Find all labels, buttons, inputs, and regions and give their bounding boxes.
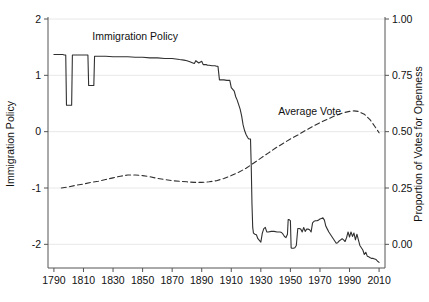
y-tick-label-left: 1 — [35, 69, 41, 81]
y-tick-label-right: 0.50 — [392, 125, 413, 137]
x-tick-label: 1830 — [101, 274, 125, 286]
x-tick-label: 1970 — [308, 274, 332, 286]
x-tick-label: 1890 — [190, 274, 214, 286]
y-tick-label-right: 0.25 — [392, 182, 413, 194]
y-tick-label-right: 0.75 — [392, 69, 413, 81]
chart-background — [0, 0, 429, 302]
chart-canvas: 1790181018301850187018901910193019501970… — [0, 0, 429, 302]
x-tick-label: 1870 — [160, 274, 184, 286]
y-tick-label-left: 2 — [35, 13, 41, 25]
y-tick-label-left: -2 — [32, 238, 41, 250]
x-tick-label: 1810 — [72, 274, 96, 286]
immigration-policy-chart: 1790181018301850187018901910193019501970… — [0, 0, 429, 302]
y-tick-label-left: 0 — [35, 125, 41, 137]
y-axis-left-title: Immigration Policy — [4, 100, 16, 187]
y-tick-label-right: 1.00 — [392, 13, 413, 25]
x-tick-label: 1850 — [131, 274, 155, 286]
series-annotation-immigration-policy: Immigration Policy — [92, 30, 179, 42]
x-tick-label: 1990 — [338, 274, 362, 286]
y-tick-label-right: 0.00 — [392, 238, 413, 250]
y-axis-right-title: Proportion of Votes for Openness — [412, 66, 424, 221]
x-tick-label: 1950 — [279, 274, 303, 286]
x-tick-label: 2010 — [367, 274, 391, 286]
y-tick-label-left: -1 — [32, 182, 41, 194]
x-tick-label: 1930 — [249, 274, 273, 286]
x-tick-label: 1910 — [220, 274, 244, 286]
x-tick-label: 1790 — [42, 274, 66, 286]
series-annotation-average-vote: Average Vote — [278, 105, 341, 117]
